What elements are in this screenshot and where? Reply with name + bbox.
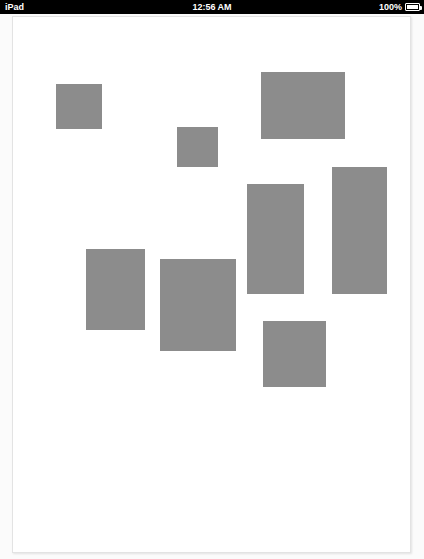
document-page[interactable] xyxy=(12,16,411,553)
battery-full-icon xyxy=(405,3,420,11)
placeholder-block[interactable] xyxy=(177,127,218,167)
placeholder-block-layer xyxy=(13,17,410,552)
status-right-group: 100% xyxy=(379,0,420,14)
placeholder-block[interactable] xyxy=(160,259,236,351)
placeholder-block[interactable] xyxy=(86,249,145,330)
placeholder-block[interactable] xyxy=(263,321,326,387)
battery-percent-label: 100% xyxy=(379,0,402,14)
placeholder-block[interactable] xyxy=(247,184,304,294)
placeholder-block[interactable] xyxy=(56,84,102,129)
placeholder-block[interactable] xyxy=(332,167,387,294)
document-viewport[interactable] xyxy=(0,14,424,559)
placeholder-block[interactable] xyxy=(261,72,345,139)
status-bar: iPad 12:56 AM 100% xyxy=(0,0,424,14)
status-clock: 12:56 AM xyxy=(0,0,424,14)
